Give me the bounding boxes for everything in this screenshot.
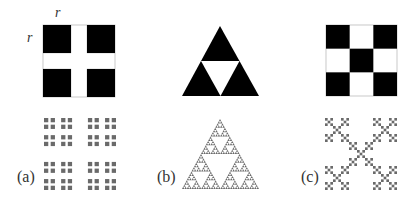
generator-c-square-3x3	[326, 25, 397, 96]
panel-label-b: (b)	[157, 169, 176, 185]
dimension-label-top-r: r	[55, 6, 60, 20]
panel-label-a: (a)	[17, 169, 35, 185]
panel-label-c: (c)	[301, 169, 319, 185]
fractal-c-vicsek-x	[325, 118, 397, 190]
generator-b-triangle	[182, 26, 259, 96]
dimension-label-left-r: r	[27, 31, 32, 45]
generator-a-square-2x2	[43, 25, 115, 97]
fractal-b-sierpinski	[182, 119, 259, 189]
figure-canvas	[0, 0, 414, 200]
fractal-a-cantor-dust	[44, 118, 116, 190]
fractal-figure: r r (a) (b) (c)	[0, 0, 414, 200]
